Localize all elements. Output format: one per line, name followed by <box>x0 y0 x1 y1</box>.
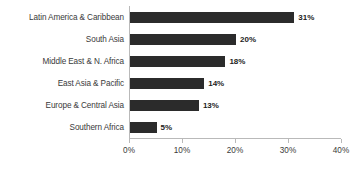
x-tick-label-2: 20% <box>227 146 243 155</box>
x-tick-4 <box>341 139 342 143</box>
bar-chart: Latin America & Caribbean South Asia Mid… <box>0 0 363 171</box>
category-label-5: Southern Africa <box>0 122 124 133</box>
bar-value-0: 31% <box>298 12 314 23</box>
bar-2 <box>130 56 225 67</box>
category-label-0: Latin America & Caribbean <box>0 12 124 23</box>
x-tick-0 <box>129 139 130 143</box>
plot-area: 0% 10% 20% 30% 40% 31% 20% 18% 14% 13% 5… <box>129 6 341 138</box>
bar-value-1: 20% <box>240 34 256 45</box>
bar-1 <box>130 34 236 45</box>
category-label-1: South Asia <box>0 34 124 45</box>
bar-value-5: 5% <box>161 122 173 133</box>
category-label-4: Europe & Central Asia <box>0 100 124 111</box>
category-label-3: East Asia & Pacific <box>0 78 124 89</box>
x-tick-3 <box>288 139 289 143</box>
x-tick-label-4: 40% <box>333 146 349 155</box>
bar-value-3: 14% <box>208 78 224 89</box>
x-tick-1 <box>182 139 183 143</box>
x-tick-2 <box>235 139 236 143</box>
x-tick-label-3: 30% <box>280 146 296 155</box>
x-tick-label-0: 0% <box>123 146 135 155</box>
bar-value-4: 13% <box>203 100 219 111</box>
bar-3 <box>130 78 204 89</box>
bar-5 <box>130 122 157 133</box>
x-tick-label-1: 10% <box>174 146 190 155</box>
bar-4 <box>130 100 199 111</box>
category-label-2: Middle East & N. Africa <box>0 56 124 67</box>
y-axis-line <box>129 6 130 138</box>
bar-value-2: 18% <box>229 56 245 67</box>
bar-0 <box>130 12 294 23</box>
